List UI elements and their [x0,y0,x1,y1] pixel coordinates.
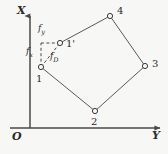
node-label-2: 2 [91,117,97,127]
figure-vector-layer [0,0,168,154]
force-label-fd-subscript: D [53,56,58,64]
node-label-1: 1 [36,74,42,84]
node-label-3: 3 [152,59,158,69]
node-marker-1prime [57,40,62,45]
node-marker-3 [142,63,147,68]
edge-3-4 [110,16,145,66]
edge-1-2 [41,67,95,111]
node-marker-4 [107,13,112,18]
edge-2-3 [95,66,145,111]
force-label-fx: fx [26,47,33,58]
force-label-fy: fy [38,24,45,35]
y-axis-label: Y [152,130,160,141]
node-marker-1 [38,64,43,69]
force-label-fx-subscript: x [29,51,33,59]
origin-label: O [12,131,22,142]
node-label-1prime: 1' [66,39,75,49]
figure-canvas: X Y O 1 2 3 4 1' fy fx fD [0,0,168,154]
node-marker-2 [92,108,97,113]
force-label-fy-subscript: y [41,28,45,36]
x-axis-label: X [17,5,26,16]
force-label-fd: fD [50,52,59,63]
node-label-4: 4 [117,6,123,16]
